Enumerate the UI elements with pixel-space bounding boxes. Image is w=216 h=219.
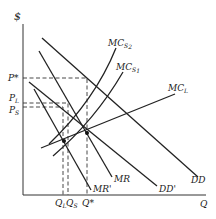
equilibrium-point-star xyxy=(85,131,89,135)
qs-label: QS xyxy=(66,198,78,209)
demand-curve-dd-prime xyxy=(29,82,157,186)
y-axis-label: $ xyxy=(14,10,21,23)
monopoly-cost-diagram: $ Q P* PL PS QL QS Q* MCS2 MCS1 MCL DD D… xyxy=(0,0,216,219)
mcs2-label: MCS2 xyxy=(107,38,132,50)
p-star-q-star-guide xyxy=(23,78,87,195)
x-axis-label: Q xyxy=(200,199,208,209)
dd-label: DD xyxy=(190,175,205,185)
dd-prime-label: DD' xyxy=(158,184,176,194)
mcl-label: MCL xyxy=(167,83,188,94)
equilibrium-point-long-run xyxy=(62,139,66,143)
pl-ql-guide xyxy=(23,107,63,195)
marginal-revenue-mr xyxy=(39,51,112,177)
ps-label: PS xyxy=(8,105,19,116)
marginal-cost-short-run-2 xyxy=(49,48,116,144)
p-star-label: P* xyxy=(7,73,19,83)
marginal-cost-short-run-1 xyxy=(53,72,123,156)
pl-label: PL xyxy=(8,93,19,104)
mr-label: MR xyxy=(113,174,130,184)
marginal-cost-long-run xyxy=(41,94,175,148)
q-star-label: Q* xyxy=(82,198,94,208)
mcs1-label: MCS1 xyxy=(115,62,140,74)
mr-prime-label: MR' xyxy=(92,184,111,194)
ql-label: QL xyxy=(55,198,66,209)
